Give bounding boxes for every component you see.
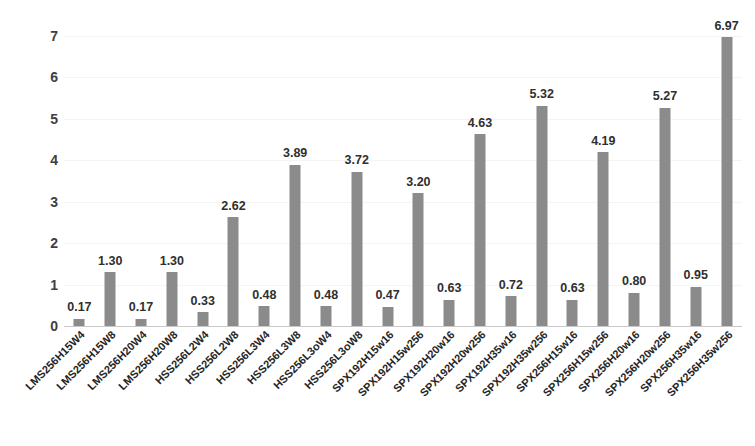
x-axis-tick: HSS256L2W8 [218, 327, 249, 446]
bar-group: 0.95 [680, 36, 711, 326]
y-axis-tick-label: 6 [50, 70, 58, 84]
y-axis-tick-label: 7 [50, 29, 58, 43]
y-axis-tick-label: 3 [50, 195, 58, 209]
bar-group: 0.48 [311, 36, 342, 326]
x-axis-labels: LMS256H15W4LMS256H15W8LMS256H20W4LMS256H… [64, 327, 742, 446]
bar-value-label: 3.89 [283, 147, 307, 160]
bar [536, 106, 547, 326]
bar-group: 1.30 [95, 36, 126, 326]
bar-group: 6.97 [711, 36, 742, 326]
bar-value-label: 4.19 [591, 135, 615, 148]
bar-value-label: 3.20 [406, 176, 430, 189]
bar [475, 134, 486, 326]
bar-group: 0.17 [126, 36, 157, 326]
bar-value-label: 0.48 [314, 289, 338, 302]
bar [290, 165, 301, 326]
y-axis-tick-label: 2 [50, 236, 58, 250]
bar [505, 296, 516, 326]
bar-group: 0.72 [495, 36, 526, 326]
bar-chart: 01234567 0.171.300.171.300.332.620.483.8… [0, 0, 755, 446]
x-axis-tick: LMS256H20W4 [126, 327, 157, 446]
bar [382, 307, 393, 326]
bar-group: 1.30 [156, 36, 187, 326]
bar [721, 37, 732, 326]
bar [690, 287, 701, 326]
bar-group: 4.63 [465, 36, 496, 326]
bar-group: 0.80 [619, 36, 650, 326]
bar [259, 306, 270, 326]
bar-value-label: 6.97 [714, 20, 738, 33]
bar-group: 5.27 [650, 36, 681, 326]
y-axis-tick-label: 1 [50, 278, 58, 292]
bar-value-label: 0.17 [67, 301, 91, 314]
bar-value-label: 0.63 [560, 282, 584, 295]
bar-value-label: 0.80 [622, 275, 646, 288]
bar [105, 272, 116, 326]
bar-group: 0.63 [434, 36, 465, 326]
y-axis-tick-label: 4 [50, 153, 58, 167]
bar [351, 172, 362, 326]
bar [659, 108, 670, 326]
x-axis-tick: LMS256H20W8 [156, 327, 187, 446]
bar-value-label: 0.47 [375, 289, 399, 302]
bar-group: 0.47 [372, 36, 403, 326]
bar-group: 3.72 [341, 36, 372, 326]
x-axis-tick: SPX256H35w256 [711, 327, 742, 446]
bar [197, 312, 208, 326]
bar [320, 306, 331, 326]
bar-value-label: 2.62 [221, 200, 245, 213]
bar-group: 5.32 [526, 36, 557, 326]
bar-group: 4.19 [588, 36, 619, 326]
bar [74, 319, 85, 326]
bar [598, 152, 609, 326]
bar-group: 3.89 [280, 36, 311, 326]
bar-value-label: 1.30 [160, 255, 184, 268]
bar-value-label: 5.27 [653, 90, 677, 103]
bar-group: 0.33 [187, 36, 218, 326]
plot-area: 0.171.300.171.300.332.620.483.890.483.72… [64, 36, 742, 326]
bar-group: 0.48 [249, 36, 280, 326]
bar-group: 0.63 [557, 36, 588, 326]
bar-value-label: 0.95 [684, 269, 708, 282]
bar-value-label: 0.72 [499, 279, 523, 292]
bar [413, 193, 424, 326]
bar-group: 0.17 [64, 36, 95, 326]
bar-value-label: 1.30 [98, 255, 122, 268]
y-axis-tick-label: 0 [50, 319, 58, 333]
bar-value-label: 0.33 [191, 295, 215, 308]
bar [567, 300, 578, 326]
bar-value-label: 5.32 [530, 88, 554, 101]
bar [228, 217, 239, 326]
x-axis-tick: HSS256L2W4 [187, 327, 218, 446]
bar [444, 300, 455, 326]
bar [136, 319, 147, 326]
bar-group: 3.20 [403, 36, 434, 326]
y-axis-tick-label: 5 [50, 112, 58, 126]
bar-value-label: 4.63 [468, 117, 492, 130]
bar-value-label: 0.17 [129, 301, 153, 314]
bar [629, 293, 640, 326]
bar [166, 272, 177, 326]
bar-value-label: 0.48 [252, 289, 276, 302]
bar-value-label: 3.72 [345, 154, 369, 167]
bar-value-label: 0.63 [437, 282, 461, 295]
y-axis: 01234567 [0, 36, 58, 326]
bar-group: 2.62 [218, 36, 249, 326]
